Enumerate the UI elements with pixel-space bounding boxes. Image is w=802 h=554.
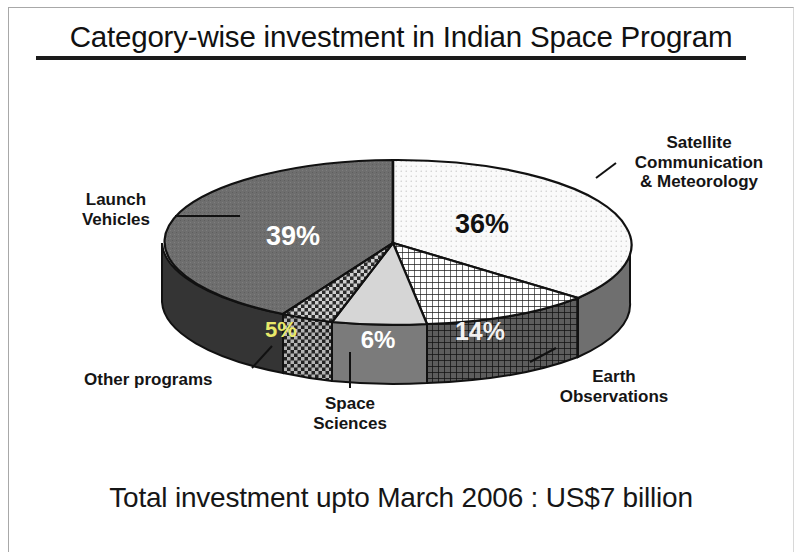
- pie-chart-svg: 39% 36% 14% 6% 5%: [0, 0, 802, 554]
- total-investment-caption: Total investment upto March 2006 : US$7 …: [30, 482, 772, 514]
- data-label-satellite-communication: 36%: [455, 209, 509, 239]
- data-label-launch-vehicles: 39%: [266, 221, 320, 251]
- category-label-satellite-communication: Satellite Communication & Meteorology: [596, 133, 802, 192]
- data-label-space-sciences: 6%: [361, 326, 396, 353]
- slide-canvas: Category-wise investment in Indian Space…: [0, 0, 802, 554]
- data-label-earth-observations: 14%: [455, 317, 505, 345]
- category-label-earth-observations: Earth Observations: [534, 367, 694, 406]
- category-label-space-sciences: Space Sciences: [290, 394, 410, 433]
- pie-chart: 39% 36% 14% 6% 5% Satellite Communicatio…: [0, 0, 802, 554]
- data-label-other-programs: 5%: [265, 317, 297, 342]
- category-label-launch-vehicles: Launch Vehicles: [56, 190, 176, 229]
- category-label-other-programs: Other programs: [84, 370, 264, 390]
